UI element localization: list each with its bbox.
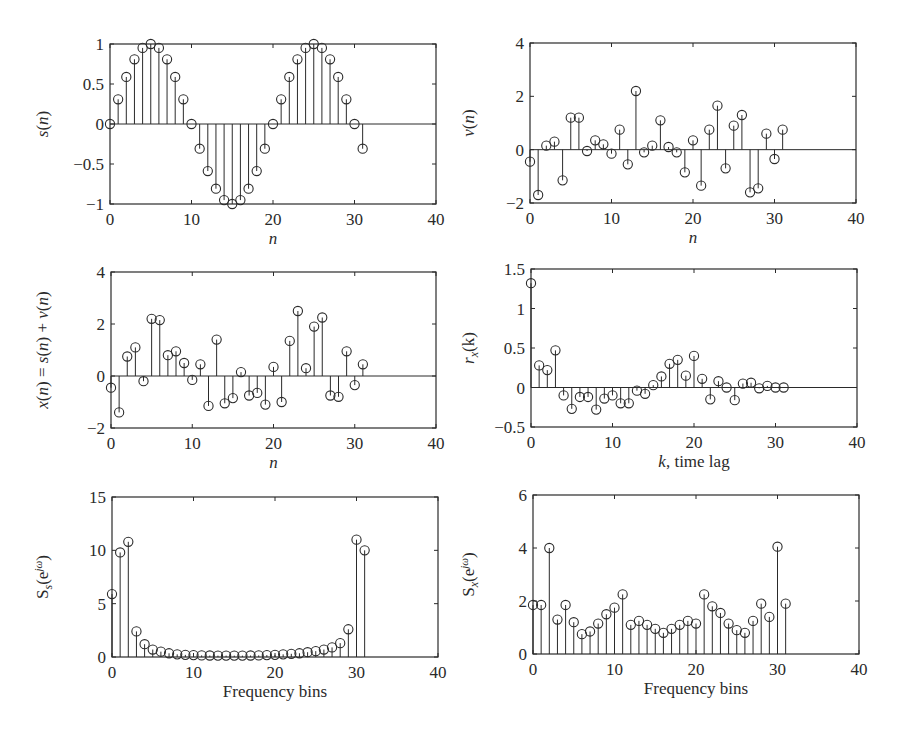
y-tick-label: 0.5 xyxy=(83,75,104,94)
y-tick-label: −0.5 xyxy=(73,155,104,174)
x-tick-label: 40 xyxy=(851,660,868,679)
y-tick-label: 0.5 xyxy=(504,339,525,358)
y-tick-label: 5 xyxy=(98,595,107,614)
y-tick-label: −0.5 xyxy=(494,418,525,437)
y-tick-label: 0 xyxy=(97,367,106,386)
x-tick-label: 20 xyxy=(685,209,702,228)
x-tick-label: 10 xyxy=(604,433,621,452)
x-tick-label: 10 xyxy=(606,660,623,679)
subplot-r_x: 010203040−0.500.511.5k, time lagrx(k) xyxy=(459,260,866,471)
x-tick-label: 20 xyxy=(265,434,282,453)
y-tick-label: −2 xyxy=(87,419,105,438)
y-tick-label: 4 xyxy=(519,539,528,558)
subplot-S_x: 0102030400246Frequency binsSx(ejω) xyxy=(458,486,868,698)
x-axis-label: Frequency bins xyxy=(644,679,748,698)
subplot-v_n: 010203040−2024nv(n) xyxy=(459,34,865,247)
subplot-x_n: 010203040−2024nx(n) = s(n) + v(n) xyxy=(33,263,445,472)
x-tick-label: 0 xyxy=(108,663,117,682)
x-tick-label: 40 xyxy=(428,210,445,229)
x-tick-label: 10 xyxy=(603,209,620,228)
x-tick-label: 10 xyxy=(185,663,202,682)
y-tick-label: 15 xyxy=(89,488,106,507)
x-axis-label: n xyxy=(269,229,278,248)
x-tick-label: 30 xyxy=(767,433,784,452)
x-tick-label: 20 xyxy=(267,663,284,682)
x-axis-label: n xyxy=(269,453,278,472)
x-axis-label: Frequency bins xyxy=(223,682,327,701)
y-tick-label: 2 xyxy=(519,592,528,611)
x-tick-label: 30 xyxy=(346,434,363,453)
y-tick-label: 1 xyxy=(96,35,105,54)
x-tick-label: 0 xyxy=(529,660,538,679)
y-tick-label: 1 xyxy=(517,300,526,319)
y-tick-label: 0 xyxy=(516,141,525,160)
y-tick-label: 0 xyxy=(519,645,528,664)
x-axis-label: n xyxy=(689,228,698,247)
x-tick-label: 10 xyxy=(184,434,201,453)
y-tick-label: 4 xyxy=(97,263,106,282)
stem-plot-grid: 010203040−1−0.500.51ns(n)010203040−2024n… xyxy=(0,0,906,738)
axes-frame xyxy=(112,497,438,657)
y-tick-label: 0 xyxy=(517,379,526,398)
y-tick-label: 2 xyxy=(97,315,106,334)
y-tick-label: −1 xyxy=(86,195,104,214)
figure: 010203040−1−0.500.51ns(n)010203040−2024n… xyxy=(0,0,906,738)
subplot-s_n: 010203040−1−0.500.51ns(n) xyxy=(33,35,445,248)
y-tick-label: 2 xyxy=(516,87,525,106)
x-tick-label: 40 xyxy=(849,433,866,452)
axes-frame xyxy=(531,269,857,427)
x-tick-label: 30 xyxy=(769,660,786,679)
x-tick-label: 20 xyxy=(265,210,282,229)
x-tick-label: 30 xyxy=(348,663,365,682)
x-tick-label: 40 xyxy=(848,209,865,228)
y-tick-label: 0 xyxy=(98,648,107,667)
x-tick-label: 20 xyxy=(686,433,703,452)
x-tick-label: 40 xyxy=(430,663,447,682)
y-tick-label: 0 xyxy=(96,115,105,134)
x-tick-label: 10 xyxy=(183,210,200,229)
x-tick-label: 0 xyxy=(106,210,115,229)
y-axis-label: x(n) = s(n) + v(n) xyxy=(33,291,52,409)
y-tick-label: 6 xyxy=(519,486,528,505)
subplot-S_s: 010203040051015Frequency binsSs(ejω) xyxy=(32,488,447,701)
x-tick-label: 20 xyxy=(688,660,705,679)
y-axis-label: Sx(ejω) xyxy=(458,552,481,597)
x-tick-label: 30 xyxy=(346,210,363,229)
y-axis-label: rx(k) xyxy=(459,332,481,364)
x-tick-label: 40 xyxy=(428,434,445,453)
x-tick-label: 0 xyxy=(527,433,536,452)
y-tick-label: 4 xyxy=(516,34,525,53)
y-tick-label: −2 xyxy=(506,194,524,213)
x-tick-label: 0 xyxy=(526,209,535,228)
y-tick-label: 1.5 xyxy=(504,260,525,279)
y-axis-label: v(n) xyxy=(459,109,478,136)
y-tick-label: 10 xyxy=(89,541,106,560)
y-axis-label: Ss(ejω) xyxy=(32,555,55,599)
x-tick-label: 30 xyxy=(766,209,783,228)
x-axis-label: k, time lag xyxy=(658,452,730,471)
x-tick-label: 0 xyxy=(107,434,116,453)
y-axis-label: s(n) xyxy=(33,111,52,137)
